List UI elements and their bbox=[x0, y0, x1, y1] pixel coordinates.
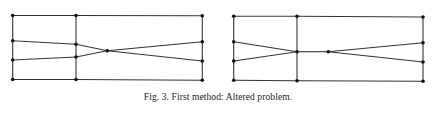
mesh-node bbox=[421, 80, 425, 84]
mesh-node bbox=[232, 59, 236, 63]
mesh-edge bbox=[328, 52, 423, 62]
mesh-node bbox=[421, 60, 425, 64]
mesh-node bbox=[201, 14, 205, 18]
mesh-edge bbox=[76, 51, 107, 57]
mesh-node bbox=[201, 59, 205, 63]
mesh-edge bbox=[107, 51, 202, 61]
mesh-node bbox=[201, 79, 205, 83]
mesh-node bbox=[74, 43, 78, 47]
mesh-node bbox=[74, 55, 78, 59]
mesh-node bbox=[74, 14, 78, 18]
mesh-edge bbox=[13, 41, 76, 45]
mesh-edge bbox=[107, 42, 202, 51]
mesh-node bbox=[201, 40, 205, 44]
mesh-node bbox=[295, 14, 299, 18]
mesh-edge bbox=[76, 80, 202, 81]
mesh-edge bbox=[234, 42, 297, 52]
mesh-node bbox=[11, 58, 15, 62]
mesh-edge bbox=[297, 16, 423, 17]
mesh-node bbox=[11, 14, 15, 18]
mesh-node bbox=[421, 15, 425, 19]
mesh-node bbox=[232, 14, 236, 18]
mesh-edge bbox=[328, 43, 423, 52]
mesh-edge bbox=[234, 52, 297, 61]
mesh-node bbox=[11, 39, 15, 43]
mesh-edge bbox=[297, 81, 423, 82]
mesh-node bbox=[421, 41, 425, 45]
mesh-edge bbox=[76, 44, 107, 50]
right-mesh-diagram bbox=[232, 14, 425, 83]
mesh-node bbox=[232, 79, 236, 83]
mesh-node bbox=[74, 78, 78, 82]
mesh-node bbox=[295, 50, 299, 54]
left-mesh-diagram bbox=[11, 14, 204, 82]
mesh-edge bbox=[13, 57, 76, 60]
mesh-figure bbox=[0, 0, 436, 125]
mesh-node bbox=[232, 40, 236, 44]
figure-caption: Fig. 3. First method: Altered problem. bbox=[0, 92, 436, 102]
mesh-node bbox=[106, 49, 110, 53]
mesh-node bbox=[295, 79, 299, 83]
mesh-node bbox=[327, 50, 331, 54]
mesh-node bbox=[11, 78, 15, 82]
